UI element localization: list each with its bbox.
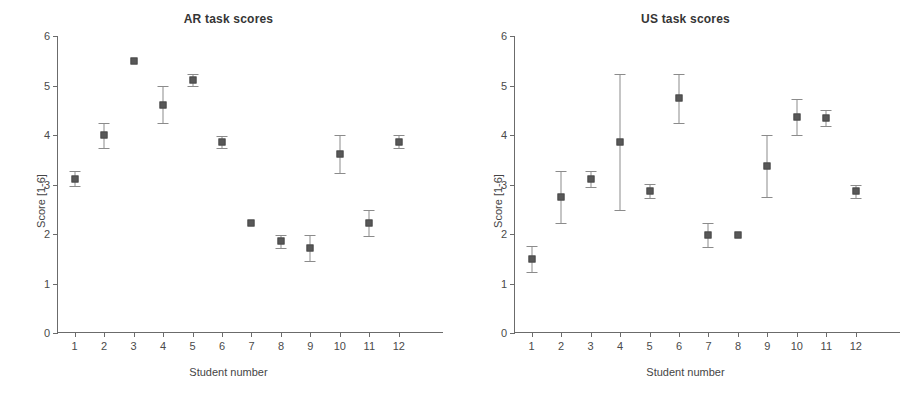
error-bar-cap-lower xyxy=(217,148,228,149)
x-tick-us-12: 12 xyxy=(856,333,857,334)
y-tick-ar-5: 5 xyxy=(57,86,58,87)
y-tick-label: 2 xyxy=(501,228,507,240)
x-tick-label: 6 xyxy=(676,340,682,352)
data-marker xyxy=(307,244,314,251)
error-bar-cap-upper xyxy=(69,171,80,172)
x-tick-mark xyxy=(75,333,76,337)
error-bar-cap-upper xyxy=(556,171,567,172)
y-tick-ar-0: 0 xyxy=(57,333,58,334)
data-marker xyxy=(395,138,402,145)
y-tick-mark xyxy=(53,135,58,136)
error-bar-cap-lower xyxy=(526,272,537,273)
x-tick-label: 11 xyxy=(364,340,375,352)
x-tick-label: 7 xyxy=(705,340,711,352)
x-tick-ar-10: 10 xyxy=(340,333,341,334)
data-marker xyxy=(160,101,167,108)
y-tick-label: 4 xyxy=(44,129,50,141)
x-tick-mark xyxy=(281,333,282,337)
x-tick-ar-1: 1 xyxy=(75,333,76,334)
y-tick-us-3: 3 xyxy=(514,185,515,186)
x-tick-ar-9: 9 xyxy=(310,333,311,334)
y-tick-mark xyxy=(510,36,515,37)
error-bar-cap-lower xyxy=(615,210,626,211)
y-tick-label: 1 xyxy=(501,278,507,290)
data-marker xyxy=(248,220,255,227)
x-tick-us-2: 2 xyxy=(561,333,562,334)
error-bar-cap-lower xyxy=(158,123,169,124)
data-marker xyxy=(676,95,683,102)
panel-us-task-scores: US task scores Score [1-6] Student numbe… xyxy=(457,0,914,401)
x-tick-us-7: 7 xyxy=(708,333,709,334)
x-tick-ar-3: 3 xyxy=(134,333,135,334)
y-tick-label: 6 xyxy=(44,30,50,42)
error-bar-cap-lower xyxy=(703,247,714,248)
x-tick-label: 2 xyxy=(558,340,564,352)
x-tick-label: 4 xyxy=(160,340,166,352)
x-tick-label: 2 xyxy=(101,340,107,352)
data-marker xyxy=(734,232,741,239)
y-tick-mark xyxy=(510,333,515,334)
y-tick-mark xyxy=(510,185,515,186)
error-bar-cap-lower xyxy=(762,197,773,198)
error-bar-cap-upper xyxy=(393,135,404,136)
x-tick-label: 8 xyxy=(735,340,741,352)
x-tick-label: 3 xyxy=(588,340,594,352)
error-bar-cap-upper xyxy=(850,185,861,186)
y-tick-label: 6 xyxy=(501,30,507,42)
error-bar-cap-lower xyxy=(69,186,80,187)
x-tick-ar-4: 4 xyxy=(163,333,164,334)
x-tick-label: 10 xyxy=(791,340,803,352)
data-marker xyxy=(219,138,226,145)
y-tick-us-1: 1 xyxy=(514,284,515,285)
data-marker xyxy=(71,175,78,182)
y-tick-label: 5 xyxy=(44,80,50,92)
y-tick-mark xyxy=(53,333,58,334)
x-tick-mark xyxy=(104,333,105,337)
error-bar-cap-upper xyxy=(615,74,626,75)
x-axis-label-ar: Student number xyxy=(0,366,457,378)
y-tick-us-4: 4 xyxy=(514,135,515,136)
x-tick-ar-5: 5 xyxy=(193,333,194,334)
error-bar-cap-upper xyxy=(644,184,655,185)
y-tick-ar-2: 2 xyxy=(57,234,58,235)
y-tick-mark xyxy=(53,284,58,285)
x-tick-ar-11: 11 xyxy=(369,333,370,334)
figure-canvas: AR task scores Score [1-6] Student numbe… xyxy=(0,0,915,401)
x-tick-label: 12 xyxy=(393,340,405,352)
data-marker xyxy=(617,138,624,145)
data-marker xyxy=(646,187,653,194)
x-axis-line-us xyxy=(514,332,900,333)
error-bar-cap-upper xyxy=(791,99,802,100)
error-bar-cap-upper xyxy=(821,110,832,111)
x-tick-mark xyxy=(134,333,135,337)
error-bar-cap-lower xyxy=(644,198,655,199)
x-tick-label: 9 xyxy=(764,340,770,352)
x-tick-us-11: 11 xyxy=(826,333,827,334)
x-tick-us-9: 9 xyxy=(767,333,768,334)
error-bar-cap-upper xyxy=(305,235,316,236)
data-marker xyxy=(823,115,830,122)
error-bar-cap-lower xyxy=(791,135,802,136)
data-marker xyxy=(587,176,594,183)
chart-title-ar: AR task scores xyxy=(0,12,457,26)
x-tick-label: 12 xyxy=(850,340,862,352)
x-tick-us-5: 5 xyxy=(650,333,651,334)
panel-ar-task-scores: AR task scores Score [1-6] Student numbe… xyxy=(0,0,457,401)
data-marker xyxy=(793,114,800,121)
y-tick-mark xyxy=(510,86,515,87)
error-bar-cap-lower xyxy=(99,148,110,149)
x-tick-mark xyxy=(532,333,533,337)
y-tick-mark xyxy=(53,185,58,186)
x-tick-mark xyxy=(738,333,739,337)
x-tick-mark xyxy=(797,333,798,337)
x-tick-us-3: 3 xyxy=(591,333,592,334)
x-tick-label: 11 xyxy=(821,340,832,352)
x-axis-label-us: Student number xyxy=(457,366,914,378)
x-tick-label: 1 xyxy=(529,340,535,352)
data-marker xyxy=(558,193,565,200)
x-tick-mark xyxy=(561,333,562,337)
data-marker xyxy=(336,151,343,158)
error-bar-cap-upper xyxy=(275,235,286,236)
error-bar-cap-upper xyxy=(187,74,198,75)
error-bar-cap-upper xyxy=(99,123,110,124)
